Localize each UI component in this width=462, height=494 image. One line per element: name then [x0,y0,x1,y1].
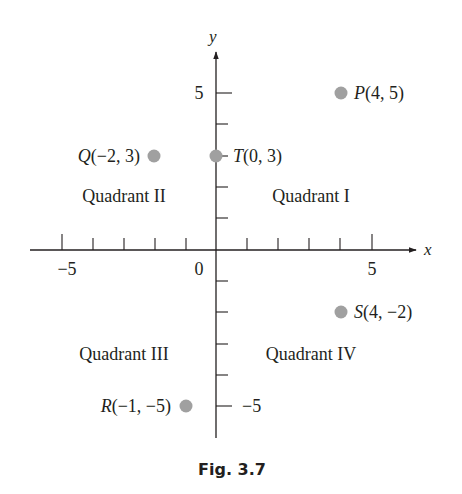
svg-text:Q(−2, 3): Q(−2, 3) [78,146,140,167]
svg-text:T(0, 3): T(0, 3) [233,146,282,167]
quadrant-label-i: Quadrant I [272,186,349,206]
quadrant-label-ii: Quadrant II [82,186,165,206]
point-s-name: S [354,302,363,322]
point-t-coords: (0, 3) [243,146,282,167]
x-axis-label: x [423,240,432,259]
point-t-marker [210,150,223,163]
quadrant-label-iii: Quadrant III [79,344,168,364]
coordinate-plane-figure: x y −5 0 5 5 −5 Quadrant II Quadrant I Q… [0,0,462,494]
quadrant-label-iv: Quadrant IV [266,344,356,364]
point-q-coords: (−2, 3) [91,146,140,167]
point-s: S(4, −2) [335,302,413,323]
point-t: T(0, 3) [210,146,283,167]
point-s-coords: (4, −2) [363,302,412,323]
point-p-name: P [353,83,365,103]
point-s-marker [335,306,348,319]
tick-label-origin: 0 [195,259,204,279]
y-axis-label: y [207,27,217,46]
figure-caption: Fig. 3.7 [198,460,266,479]
point-q: Q(−2, 3) [78,146,161,167]
x-axis: x [30,234,432,259]
svg-text:P(4, 5): P(4, 5) [353,83,404,104]
point-p: P(4, 5) [335,83,405,104]
svg-text:S(4, −2): S(4, −2) [354,302,412,323]
point-p-marker [335,87,348,100]
point-q-name: Q [78,146,91,166]
y-axis: y [207,27,232,438]
tick-label-y-neg5: −5 [242,396,261,416]
point-r-marker [180,400,193,413]
point-q-marker [148,150,161,163]
point-p-coords: (4, 5) [365,83,404,104]
tick-label-y-pos5: 5 [195,83,204,103]
point-r-name: R [100,396,112,416]
tick-label-x-pos5: 5 [368,259,377,279]
point-r-coords: (−1, −5) [112,396,171,417]
svg-text:R(−1, −5): R(−1, −5) [100,396,171,417]
tick-label-x-neg5: −5 [57,259,76,279]
point-r: R(−1, −5) [100,396,193,417]
